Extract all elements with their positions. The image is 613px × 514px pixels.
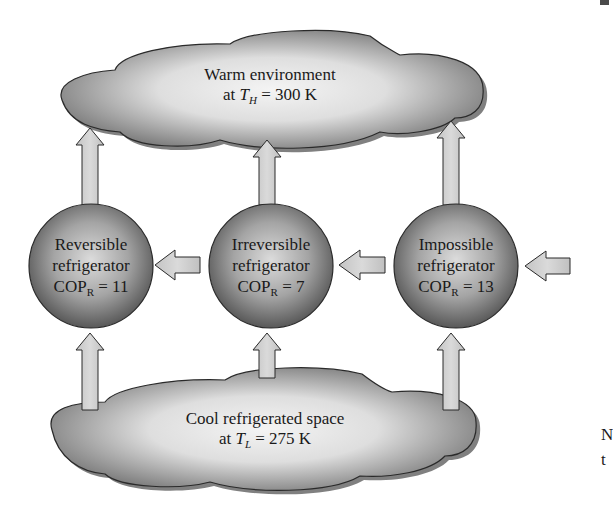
cop-impossible: COPR = 13 [394,276,518,303]
reversible-refrigerator-label: Reversible refrigerator COPR = 11 [29,234,153,303]
up-arrow-reversible-bottom [76,333,104,410]
impossible-refrigerator-label: Impossible refrigerator COPR = 13 [394,234,518,303]
warm-environment-label: Warm environment at TH = 300 K [165,65,375,110]
cropped-corner-mark [600,0,609,5]
cool-space-label: Cool refrigerated space at TL = 275 K [150,409,380,454]
cop-reversible: COPR = 11 [29,276,153,303]
warm-environment-title: Warm environment [165,65,375,85]
left-arrow-reversible [155,250,200,280]
left-arrow-irreversible [339,250,385,280]
left-arrow-impossible [525,251,570,281]
up-arrow-impossible-top [437,121,465,205]
warm-environment-temperature: at TH = 300 K [165,85,375,110]
cool-space-temperature: at TL = 275 K [150,429,380,454]
irreversible-refrigerator-label: Irreversible refrigerator COPR = 7 [209,234,333,303]
cropped-caption-line1: N [601,425,613,445]
up-arrow-reversible-top [76,128,104,205]
cool-space-title: Cool refrigerated space [150,409,380,429]
cropped-caption-line2: t [601,450,606,470]
cop-irreversible: COPR = 7 [209,276,333,303]
